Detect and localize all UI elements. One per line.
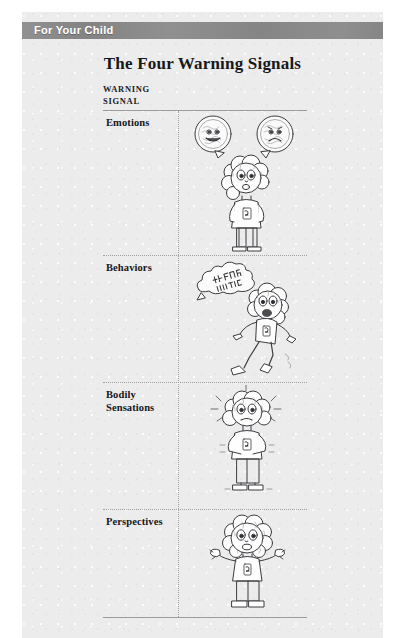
row-label-line-1: Perspectives: [106, 516, 163, 529]
page-title: The Four Warning Signals: [22, 54, 383, 74]
document-page: For Your Child The Four Warning Signals …: [22, 12, 383, 638]
column-header-warning-signal: WARNING SIGNAL: [103, 84, 150, 107]
table-row-label-behaviors: Behaviors: [106, 262, 152, 275]
column-divider-vertical: [178, 111, 179, 617]
row-label-line-1: Behaviors: [106, 262, 152, 275]
row-label-line-1: Bodily: [106, 389, 154, 402]
table-top-rule: [103, 110, 307, 111]
column-header-line-2: SIGNAL: [103, 96, 150, 108]
table-bottom-rule: [103, 617, 307, 618]
row-divider-3: [103, 382, 307, 383]
illustration-emotions: [185, 112, 307, 252]
table-row-label-emotions: Emotions: [106, 117, 149, 130]
section-banner-label: For Your Child: [34, 23, 114, 38]
row-label-line-2: Sensations: [106, 402, 154, 415]
warning-signals-table: WARNING SIGNAL Emotions: [103, 84, 353, 618]
row-divider-2: [103, 255, 307, 256]
illustration-perspectives: [185, 512, 307, 616]
row-divider-4: [103, 509, 307, 510]
illustration-behaviors: [185, 258, 307, 380]
column-header-line-1: WARNING: [103, 84, 150, 96]
section-banner: For Your Child: [22, 22, 383, 39]
row-label-line-1: Emotions: [106, 117, 149, 130]
table-row-label-perspectives: Perspectives: [106, 516, 163, 529]
illustration-bodily-sensations: [185, 385, 307, 507]
table-row-label-bodily-sensations: Bodily Sensations: [106, 389, 154, 414]
